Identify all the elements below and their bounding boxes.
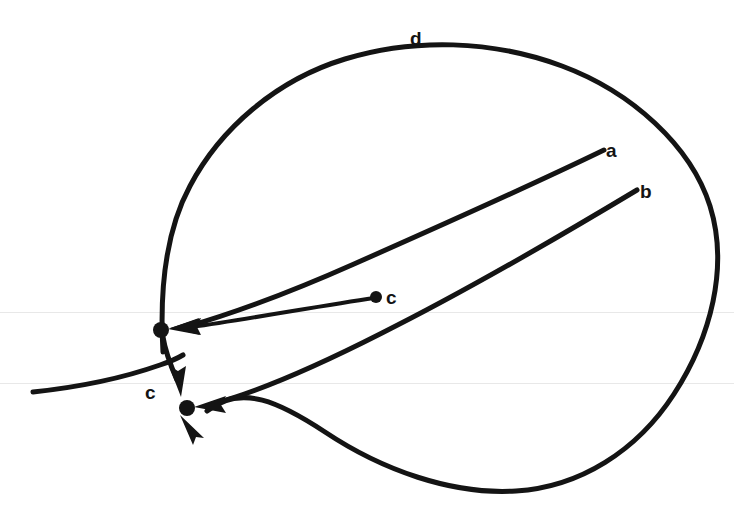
curve-c-arrow bbox=[170, 298, 374, 335]
node-interior-c-dot bbox=[370, 291, 382, 303]
label-d: d bbox=[410, 29, 422, 48]
label-b: b bbox=[640, 182, 652, 201]
curve-c-transversal-path bbox=[33, 355, 183, 392]
figure-canvas: d a b c c bbox=[0, 0, 734, 509]
node-upper-dot bbox=[153, 322, 169, 338]
arrowhead-c-transversal-icon bbox=[169, 366, 186, 397]
arrowhead-d-icon bbox=[180, 415, 204, 445]
diagram-drawing bbox=[0, 0, 734, 509]
curve-c-transversal bbox=[33, 337, 186, 397]
label-a: a bbox=[606, 141, 617, 160]
label-c-interior: c bbox=[386, 288, 397, 307]
curve-d-ellipse bbox=[162, 45, 718, 492]
arrowhead-d bbox=[180, 415, 204, 445]
arrowhead-c-arrow-icon bbox=[170, 318, 201, 335]
curve-c-arrow-path bbox=[192, 298, 374, 327]
label-c-crossing: c bbox=[145, 383, 156, 402]
curve-d-upper-arc bbox=[162, 45, 718, 492]
node-lower-dot bbox=[179, 400, 195, 416]
